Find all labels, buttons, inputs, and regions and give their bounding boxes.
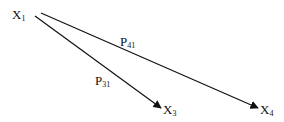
node-x4: X4	[260, 103, 273, 118]
edge-x1-x4	[41, 13, 258, 108]
edge-label-p41: P41	[120, 35, 135, 50]
node-x1: X1	[12, 8, 25, 23]
node-x3: X3	[163, 103, 176, 118]
edge-label-p31: P31	[95, 74, 110, 89]
diagram-canvas	[0, 0, 284, 122]
edge-x1-x3	[35, 16, 161, 108]
